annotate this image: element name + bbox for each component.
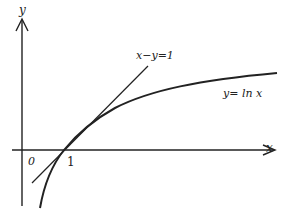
tangent-label: x−y=1 [136,50,174,61]
curve-label: y= ln x [223,88,262,99]
y-axis-label: y [19,4,26,16]
diagram-canvas: y x 0 1 x−y=1 y= ln x [0,0,285,216]
tick-label-one: 1 [67,156,75,168]
origin-label: 0 [28,156,35,167]
diagram-graphics [0,0,285,216]
x-axis-label: x [266,142,273,154]
